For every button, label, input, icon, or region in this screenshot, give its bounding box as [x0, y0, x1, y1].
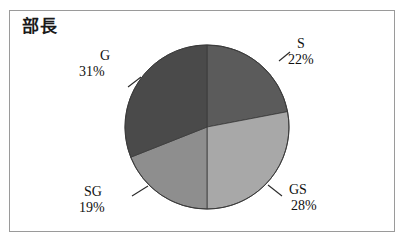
- pie-label-gs-name: GS: [289, 182, 317, 198]
- pie-label-s: S 22%: [288, 36, 314, 67]
- pie-label-sg-name: SG: [84, 184, 105, 200]
- pie-label-s-name: S: [297, 36, 314, 52]
- pie-label-g: G 31%: [79, 48, 110, 79]
- pie-label-g-percent: 31%: [79, 64, 110, 80]
- leader-line-sg: [132, 186, 148, 196]
- pie-slice-gs: [207, 112, 289, 209]
- pie-label-s-percent: 22%: [288, 52, 314, 68]
- pie-label-sg-percent: 19%: [79, 200, 105, 216]
- leader-line-gs: [268, 185, 282, 196]
- pie-label-sg: SG 19%: [79, 184, 105, 215]
- pie-label-gs-percent: 28%: [291, 198, 317, 214]
- pie-chart-figure: 部長 S 22% GS 28% SG 19% G 31%: [0, 0, 416, 249]
- pie-slice-group: [125, 45, 289, 209]
- pie-label-gs: GS 28%: [289, 182, 317, 213]
- pie-label-g-name: G: [100, 48, 110, 64]
- pie-chart-graphic: [0, 0, 416, 249]
